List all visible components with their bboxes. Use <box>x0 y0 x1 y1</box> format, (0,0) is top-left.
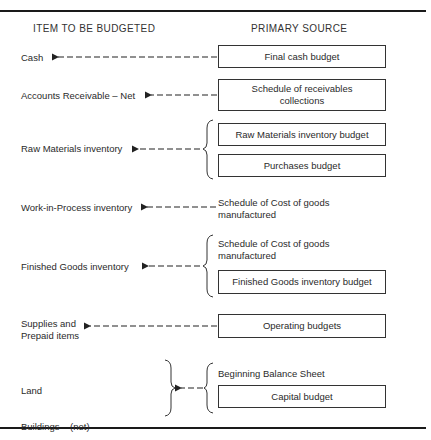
connector-arrows <box>0 0 431 440</box>
